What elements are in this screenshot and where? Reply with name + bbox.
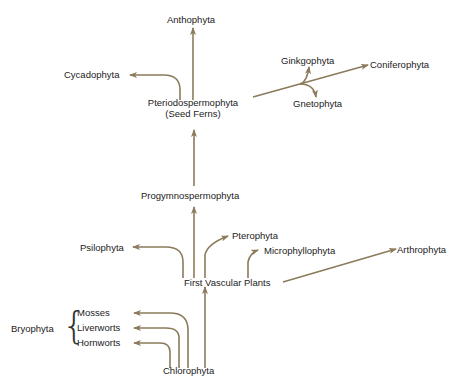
arrow-to-psilophyta — [133, 247, 183, 278]
node-cycadophyta: Cycadophyta — [64, 69, 119, 80]
arrow-to-gnetophyta — [300, 84, 316, 97]
arrow-to-liverworts — [134, 328, 179, 368]
arrow-to-pterophyta — [205, 236, 228, 278]
node-first-vascular-plants: First Vascular Plants — [184, 277, 270, 288]
node-gnetophyta: Gnetophyta — [293, 98, 342, 109]
node-bryophyta: Bryophyta — [11, 323, 54, 334]
node-pteriodospermophyta: Pteriodospermophyta (Seed Ferns) — [135, 97, 251, 119]
node-coniferophyta: Coniferophyta — [370, 59, 429, 70]
node-arthrophyta: Arthrophyta — [397, 244, 446, 255]
node-liverworts: Liverworts — [77, 322, 120, 333]
node-hornworts: Hornworts — [77, 337, 120, 348]
arrow-to-coniferophyta — [253, 65, 368, 97]
node-progymnospermophyta: Progymnospermophyta — [141, 190, 239, 201]
node-mosses: Mosses — [77, 307, 110, 318]
node-ginkgophyta: Ginkgophyta — [281, 55, 334, 66]
node-anthophyta: Anthophyta — [167, 14, 215, 25]
seed-ferns-label: (Seed Ferns) — [135, 108, 251, 119]
node-pterophyta: Pterophyta — [232, 230, 278, 241]
node-psilophyta: Psilophyta — [80, 242, 124, 253]
arrow-to-microphyllophyta — [248, 250, 258, 278]
node-chlorophyta: Chlorophyta — [163, 365, 214, 376]
node-microphyllophyta: Microphyllophyta — [264, 245, 335, 256]
arrow-to-mosses — [134, 313, 188, 368]
pterido-label: Pteriodospermophyta — [135, 97, 251, 108]
